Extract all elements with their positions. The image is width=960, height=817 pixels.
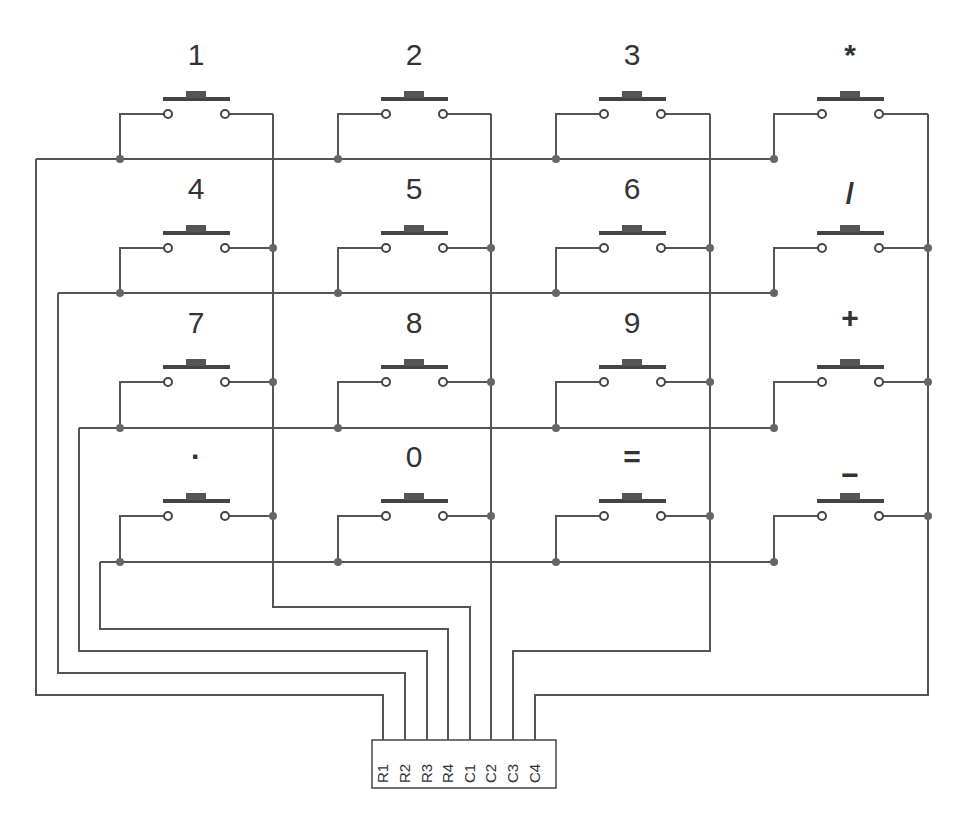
contact-icon — [875, 378, 883, 386]
junction-dot-icon — [552, 289, 560, 297]
junction-dot-icon — [552, 558, 560, 566]
switch-cap-icon — [404, 359, 424, 366]
key-label: 1 — [188, 38, 205, 71]
switch-cap-icon — [404, 225, 424, 232]
key-switch-r2c3: 6 — [552, 172, 714, 297]
junction-dot-icon — [269, 378, 277, 386]
key-switch-r2c1: 4 — [116, 172, 277, 297]
junction-dot-icon — [924, 512, 932, 520]
switch-left-lead — [556, 382, 600, 428]
junction-dot-icon — [924, 244, 932, 252]
key-label: / — [846, 177, 855, 210]
key-label: 5 — [406, 172, 423, 205]
switch-left-lead — [774, 248, 818, 293]
switch-cap-icon — [186, 225, 206, 232]
key-switch-r1c4: * — [770, 38, 928, 163]
switch-cap-icon — [840, 359, 860, 366]
switch-grid: 123*456/789+·0=− — [116, 38, 932, 566]
switch-left-lead — [338, 114, 382, 159]
switch-cap-icon — [186, 493, 206, 500]
switch-cap-icon — [186, 91, 206, 98]
key-switch-r2c2: 5 — [334, 172, 495, 297]
junction-dot-icon — [116, 424, 124, 432]
junction-dot-icon — [924, 378, 932, 386]
junction-dot-icon — [770, 155, 778, 163]
junction-dot-icon — [552, 155, 560, 163]
contact-icon — [439, 378, 447, 386]
contact-icon — [818, 110, 826, 118]
pin-label-r1: R1 — [374, 764, 391, 783]
row-route-r3 — [79, 428, 427, 740]
pin-label-r4: R4 — [439, 764, 456, 783]
contact-icon — [657, 244, 665, 252]
key-switch-r4c1: · — [116, 440, 277, 566]
key-label: = — [623, 440, 641, 473]
key-label: 7 — [188, 306, 205, 339]
contact-icon — [221, 244, 229, 252]
contact-icon — [657, 110, 665, 118]
junction-dot-icon — [706, 512, 714, 520]
switch-cap-icon — [404, 493, 424, 500]
switch-left-lead — [338, 516, 382, 562]
switch-cap-icon — [840, 493, 860, 500]
contact-icon — [818, 378, 826, 386]
switch-cap-icon — [622, 359, 642, 366]
junction-dot-icon — [487, 378, 495, 386]
key-switch-r3c1: 7 — [116, 306, 277, 432]
switch-cap-icon — [404, 91, 424, 98]
junction-dot-icon — [116, 558, 124, 566]
contact-icon — [164, 110, 172, 118]
switch-cap-icon — [622, 493, 642, 500]
junction-dot-icon — [770, 424, 778, 432]
switch-cap-icon — [186, 359, 206, 366]
switch-left-lead — [338, 248, 382, 293]
key-switch-r4c4: − — [770, 458, 932, 566]
junction-dot-icon — [269, 244, 277, 252]
pin-label-r2: R2 — [396, 764, 413, 783]
pin-label-c1: C1 — [461, 764, 478, 783]
junction-dot-icon — [706, 378, 714, 386]
keypad-schematic: 123*456/789+·0=− R1R2R3R4C1C2C3C4 — [0, 0, 960, 817]
junction-dot-icon — [116, 289, 124, 297]
switch-left-lead — [774, 516, 818, 562]
key-label: 4 — [188, 172, 205, 205]
junction-dot-icon — [552, 424, 560, 432]
switch-left-lead — [556, 114, 600, 159]
junction-dot-icon — [770, 558, 778, 566]
key-label: 8 — [406, 306, 423, 339]
switch-left-lead — [120, 248, 164, 293]
switch-cap-icon — [840, 91, 860, 98]
key-label: 0 — [406, 440, 423, 473]
key-label: 2 — [406, 38, 423, 71]
row-route-r1 — [36, 159, 383, 740]
contact-icon — [382, 512, 390, 520]
junction-dot-icon — [706, 244, 714, 252]
contact-icon — [221, 512, 229, 520]
contact-icon — [439, 512, 447, 520]
contact-icon — [439, 110, 447, 118]
contact-icon — [221, 110, 229, 118]
switch-left-lead — [120, 382, 164, 428]
switch-left-lead — [556, 248, 600, 293]
contact-icon — [164, 244, 172, 252]
pin-label-c4: C4 — [526, 764, 543, 783]
key-switch-r3c4: + — [770, 301, 932, 432]
contact-icon — [657, 512, 665, 520]
switch-left-lead — [556, 516, 600, 562]
connector-header: R1R2R3R4C1C2C3C4 — [372, 740, 556, 788]
contact-icon — [382, 244, 390, 252]
pin-label-c3: C3 — [504, 764, 521, 783]
contact-icon — [382, 378, 390, 386]
key-switch-r1c2: 2 — [334, 38, 491, 163]
switch-cap-icon — [840, 225, 860, 232]
contact-icon — [439, 244, 447, 252]
contact-icon — [600, 110, 608, 118]
switch-left-lead — [338, 382, 382, 428]
switch-cap-icon — [622, 91, 642, 98]
switch-left-lead — [774, 114, 818, 159]
key-switch-r4c2: 0 — [334, 440, 495, 566]
contact-icon — [221, 378, 229, 386]
key-label: 3 — [624, 38, 641, 71]
contact-icon — [600, 512, 608, 520]
junction-dot-icon — [487, 244, 495, 252]
